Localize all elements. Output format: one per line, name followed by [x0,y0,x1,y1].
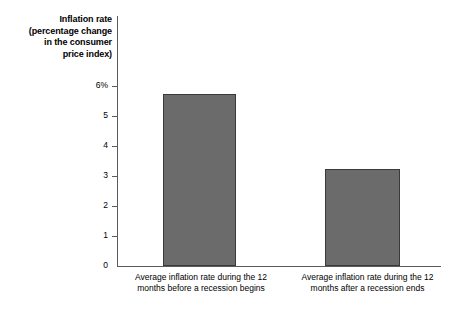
inflation-rate-bar-chart: Inflation rate (percentage change in the… [0,0,453,316]
y-tick-label-6: 6% [72,81,108,90]
y-tick-mark-1 [112,236,118,237]
x-axis-line [117,266,441,267]
y-tick-label-4: 4 [72,141,108,150]
y-tick-label-2: 2 [72,201,108,210]
y-tick-label-0-wrap: 0 [72,261,108,270]
y-tick-label-3: 3 [72,171,108,180]
y-tick-label-4-wrap: 4 [72,141,108,150]
x-category-label-0: Average inflation rate during the 12 mon… [112,272,290,294]
y-tick-label-2-wrap: 2 [72,201,108,210]
y-tick-mark-3 [112,176,118,177]
y-tick-label-0: 0 [72,261,108,270]
bar-before-recession [163,94,236,267]
y-tick-label-1: 1 [72,231,108,240]
y-tick-label-5-wrap: 5 [72,111,108,120]
y-tick-mark-5 [112,116,118,117]
y-tick-label-1-wrap: 1 [72,231,108,240]
y-tick-mark-4 [112,146,118,147]
y-tick-mark-2 [112,206,118,207]
y-tick-label-3-wrap: 3 [72,171,108,180]
bar-after-recession [325,169,400,267]
y-tick-mark-6 [112,86,118,87]
y-axis-line [117,16,118,267]
y-tick-label-5: 5 [72,111,108,120]
y-tick-label-6-wrap: 6% [72,81,108,90]
x-category-label-1: Average inflation rate during the 12 mon… [282,272,453,294]
y-axis-title: Inflation rate (percentage change in the… [8,14,112,60]
